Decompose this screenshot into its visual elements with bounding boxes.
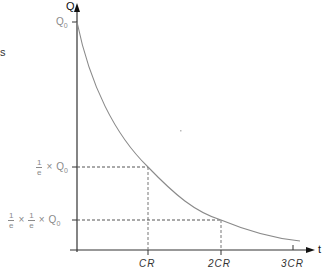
label-cr: CR xyxy=(139,259,155,269)
frac-den: e xyxy=(37,168,41,177)
x-axis-arrow-icon xyxy=(306,247,315,253)
times-sign: × xyxy=(18,214,24,225)
frac-num: 1 xyxy=(28,211,34,221)
label-q0: Q0 xyxy=(56,17,68,29)
q-subscript: 0 xyxy=(64,167,68,174)
q-subscript: 0 xyxy=(56,220,60,227)
decay-curve xyxy=(77,22,300,241)
x-axis-label: t xyxy=(318,244,321,255)
frac-den: e xyxy=(29,221,33,230)
label-2cr: 2CR xyxy=(208,259,231,269)
q-subscript: 0 xyxy=(64,22,68,29)
frac-num: 1 xyxy=(36,158,42,168)
label-q0-over-e2: 1 e × 1 e ×Q0 xyxy=(8,211,60,230)
q-symbol: Q xyxy=(56,16,64,27)
fraction-1-over-e: 1 e xyxy=(36,158,42,177)
discharge-plot xyxy=(0,0,326,277)
frac-num: 1 xyxy=(8,211,14,221)
q-symbol: Q xyxy=(56,161,64,172)
label-3cr: 3CR xyxy=(281,259,304,269)
times-sign: × xyxy=(39,214,45,225)
fraction-1-over-e: 1 e xyxy=(28,211,34,230)
y-axis-label: Q xyxy=(66,1,75,12)
stray-dot xyxy=(180,130,182,132)
fraction-1-over-e: 1 e xyxy=(8,211,14,230)
frac-den: e xyxy=(9,221,13,230)
times-sign: × xyxy=(46,161,52,172)
label-q0-over-e: 1 e ×Q0 xyxy=(36,158,68,177)
stray-text: s xyxy=(0,46,6,58)
